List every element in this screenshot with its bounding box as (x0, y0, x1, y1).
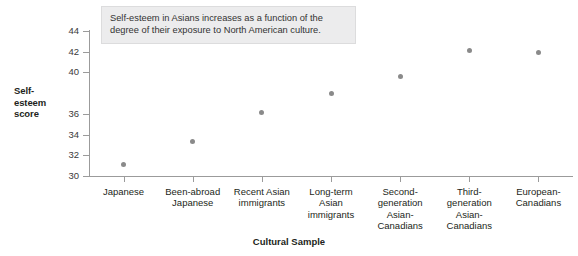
x-axis-title: Cultural Sample (0, 236, 578, 247)
data-point (329, 91, 334, 96)
data-point (467, 48, 472, 53)
y-axis-title-line: Self- (14, 85, 72, 97)
x-axis-tick-label-line: Canadians (497, 197, 578, 208)
x-axis-tick-label-line: European- (497, 186, 578, 197)
y-axis-tick-label: 40 (49, 67, 79, 77)
x-axis-tick (469, 177, 470, 182)
data-point (398, 74, 403, 79)
x-axis-tick-label: European-Canadians (497, 186, 578, 209)
data-point (121, 162, 126, 167)
y-axis-tick-label: 42 (49, 47, 79, 57)
annotation-line: Self-esteem in Asians increases as a fun… (110, 12, 347, 24)
y-axis-tick (83, 176, 89, 177)
y-axis-line (89, 30, 90, 177)
y-axis-tick (83, 72, 89, 73)
annotation-line: degree of their exposure to North Americ… (110, 24, 347, 36)
data-point (190, 139, 195, 144)
y-axis-tick-label: 30 (49, 171, 79, 181)
x-axis-tick (124, 177, 125, 182)
y-axis-tick (83, 52, 89, 53)
chart-figure: Self- esteem score 30323436404244 Japane… (0, 0, 578, 256)
y-axis-tick (83, 114, 89, 115)
y-axis-title-line: esteem (14, 97, 72, 109)
y-axis-tick-label: 36 (49, 109, 79, 119)
data-point (536, 50, 541, 55)
y-axis-tick (83, 31, 89, 32)
y-axis-tick (83, 135, 89, 136)
y-axis-tick-label: 34 (49, 130, 79, 140)
y-axis-tick (83, 155, 89, 156)
data-point (259, 110, 264, 115)
y-axis-tick-label: 32 (49, 150, 79, 160)
x-axis-tick (400, 177, 401, 182)
annotation-callout: Self-esteem in Asians increases as a fun… (101, 6, 356, 44)
x-axis-tick (331, 177, 332, 182)
x-axis-tick-label-line: Canadians (428, 220, 510, 231)
x-axis-tick (538, 177, 539, 182)
x-axis-tick (193, 177, 194, 182)
x-axis-tick-label-line: Asian- (428, 209, 510, 220)
x-axis-tick (262, 177, 263, 182)
y-axis-tick-label: 44 (49, 26, 79, 36)
